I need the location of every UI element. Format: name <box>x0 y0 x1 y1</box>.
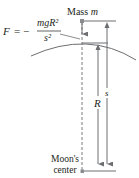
equals-minus: = − <box>14 26 29 36</box>
mass-point <box>80 19 84 23</box>
radius-label: R <box>94 98 101 108</box>
distance-label: s <box>105 88 109 98</box>
equation-denominator: s² <box>44 33 51 43</box>
equation-leader-line <box>60 34 80 39</box>
moon-surface-curve <box>31 44 136 60</box>
mass-variable: m <box>91 6 98 17</box>
distance-arrow-top-head <box>105 22 110 28</box>
moon-center-label-line1: Moon's <box>47 154 83 165</box>
equation-numerator: mgR² <box>37 18 58 28</box>
moon-center-label-line2: center <box>47 165 83 176</box>
mass-label: Mass m <box>67 7 98 17</box>
mass-label-text: Mass <box>67 6 91 17</box>
moon-center-label: Moon's center <box>47 154 83 176</box>
force-symbol: F <box>3 26 10 36</box>
